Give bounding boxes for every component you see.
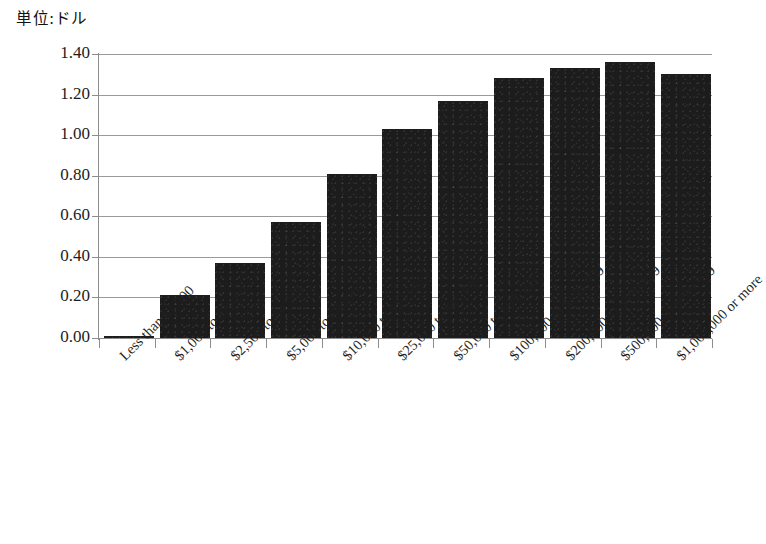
x-axis-tick [489,339,490,348]
y-axis-tick [92,297,99,298]
x-axis-tick [155,339,156,348]
y-axis-tick-label: 1.40 [4,43,90,63]
x-axis-tick [99,339,100,348]
y-axis-tick-label: 0.00 [4,327,90,347]
y-axis-tick-label: 1.20 [4,84,90,104]
y-axis-tick-label: 0.40 [4,246,90,266]
x-axis-tick [378,339,379,348]
y-axis-labels: 1.401.201.000.800.600.400.200.00 [0,0,90,544]
y-axis-tick [92,176,99,177]
y-axis-tick-label: 1.00 [4,124,90,144]
y-axis-tick-label: 0.20 [4,286,90,306]
y-axis-tick [92,54,99,55]
x-axis-tick [601,339,602,348]
x-axis-tick [545,339,546,348]
x-axis-tick [322,339,323,348]
y-axis-tick [92,95,99,96]
gridline [99,54,712,55]
x-axis-tick [433,339,434,348]
y-axis-tick [92,216,99,217]
y-axis-tick-label: 0.60 [4,205,90,225]
x-axis-tick [266,339,267,348]
y-axis-tick [92,135,99,136]
y-axis-tick [92,338,99,339]
x-axis-tick [210,339,211,348]
y-axis-tick-label: 0.80 [4,165,90,185]
x-axis-tick [712,339,713,348]
x-axis-tick [656,339,657,348]
y-axis-tick [92,257,99,258]
